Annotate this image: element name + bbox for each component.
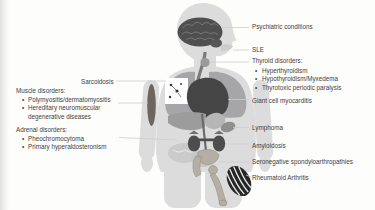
- bullet-marker: •: [255, 84, 260, 93]
- mouth-shading: [221, 44, 233, 51]
- thyroid-disorders-heading: Thyroid disorders:: [252, 57, 341, 66]
- bullet-marker: •: [255, 75, 260, 84]
- arm-muscle-organ: [147, 84, 156, 126]
- label-sle: SLE: [252, 46, 264, 55]
- bullet-marker: •: [255, 67, 260, 76]
- list-item: • Polymyositis/dermatomyositis: [22, 96, 126, 105]
- label-psychiatric-conditions: Psychiatric conditions: [252, 23, 313, 32]
- label-sarcoidosis: Sarcoidosis: [81, 78, 114, 87]
- sarcoid-granulomas-inset: [165, 78, 188, 104]
- bullet-marker: •: [22, 135, 26, 144]
- list-item: • Thyrotoxic periodic paralysis: [255, 84, 341, 93]
- adrenal-disorders-heading: Adrenal disorders:: [16, 126, 126, 135]
- label-amyloidosis: Amyloidosis: [252, 142, 286, 151]
- muscle-disorders-heading: Muscle disorders:: [16, 87, 126, 96]
- label-seronegative-spondyloarthropathies: Seronegative spondyloarthropathies: [252, 158, 353, 167]
- label-rheumatoid-arthritis: Rheumatoid Arthritis: [252, 174, 309, 183]
- adrenal-disorders-list: • Pheochromocytoma • Primary hyperaldost…: [16, 135, 126, 152]
- left-hand-silhouette: [141, 154, 153, 172]
- bullet-marker: •: [22, 96, 26, 105]
- label-group-left-disorders: Muscle disorders: • Polymyositis/dermato…: [16, 87, 126, 152]
- list-item: • Primary hyperaldosteronism: [22, 143, 126, 152]
- label-lymphoma: Lymphoma: [252, 124, 283, 133]
- bullet-marker: •: [22, 143, 26, 152]
- thyroid-organ: [200, 58, 209, 67]
- muscle-disorders-list: • Polymyositis/dermatomyositis • Heredit…: [16, 96, 126, 122]
- label-group-thyroid-disorders: Thyroid disorders: • Hyperthyroidism • H…: [252, 57, 341, 92]
- list-item: • Hereditary neuromuscular degenerative …: [22, 104, 126, 121]
- list-item: • Hyperthyroidism: [255, 67, 341, 76]
- list-item: • Pheochromocytoma: [22, 135, 126, 144]
- label-giant-cell-myocarditis: Giant cell myocarditis: [252, 97, 312, 106]
- list-item: • Hypothyroidism/Myxedema: [255, 75, 341, 84]
- thyroid-disorders-list: • Hyperthyroidism • Hypothyroidism/Myxed…: [252, 67, 341, 93]
- bullet-marker: •: [22, 104, 26, 121]
- heart-organ: [187, 78, 229, 118]
- medical-diagram: Sarcoidosis Muscle disorders: • Polymyos…: [0, 0, 375, 210]
